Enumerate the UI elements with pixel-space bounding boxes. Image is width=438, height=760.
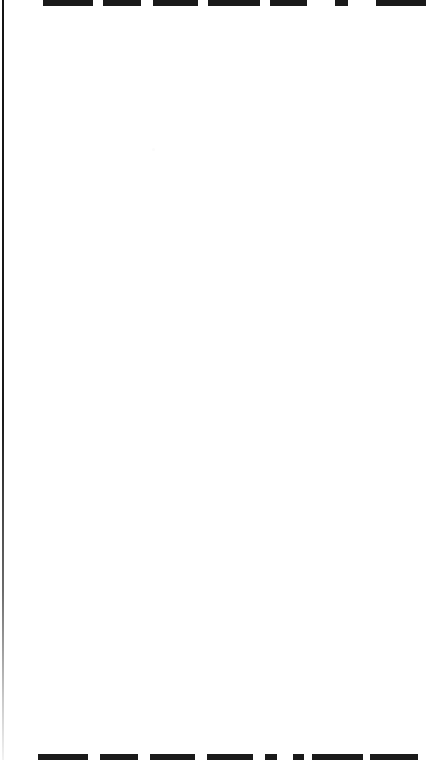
clipped-glyph-fragment (100, 754, 138, 760)
clipped-glyph-fragment (376, 0, 426, 6)
clipped-glyph-fragment (312, 754, 363, 760)
clipped-text-row-top (0, 0, 438, 8)
clipped-glyph-fragment (103, 0, 141, 6)
clipped-text-row-bottom (0, 753, 438, 760)
clipped-glyph-fragment (335, 0, 348, 6)
clipped-glyph-fragment (270, 0, 307, 6)
clipped-glyph-fragment (208, 0, 260, 6)
clipped-glyph-fragment (370, 754, 418, 760)
blank-page-body (4, 0, 438, 760)
clipped-glyph-fragment (43, 0, 93, 6)
clipped-glyph-fragment (207, 754, 253, 760)
clipped-glyph-fragment (150, 754, 195, 760)
clipped-glyph-fragment (153, 0, 198, 6)
page-artifact-speck (152, 148, 155, 151)
clipped-glyph-fragment (265, 754, 277, 760)
clipped-glyph-fragment (293, 754, 304, 760)
clipped-glyph-fragment (38, 754, 88, 760)
document-viewport (0, 0, 438, 760)
